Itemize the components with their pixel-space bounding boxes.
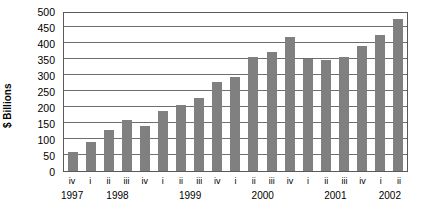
bar [158, 111, 168, 171]
bar [339, 57, 349, 171]
x-axis-quarter-label: iii [190, 175, 208, 188]
bar [248, 57, 258, 171]
bar [285, 37, 295, 171]
y-axis-tick-label: 400 [37, 39, 55, 50]
bar [104, 130, 114, 171]
bar [86, 142, 96, 171]
x-axis-quarter-label: i [154, 175, 172, 188]
bar [230, 77, 240, 171]
y-axis-tick-label: 50 [43, 151, 55, 162]
bar [267, 52, 277, 171]
y-axis-tick-label: 200 [37, 103, 55, 114]
bar [303, 59, 313, 171]
bars-container [64, 13, 407, 171]
bar-slot [263, 13, 281, 171]
x-axis-quarter-label: iii [263, 175, 281, 188]
x-axis-quarter-label: iv [354, 175, 372, 188]
bar-slot [154, 13, 172, 171]
bar-slot [226, 13, 244, 171]
y-axis-tick-label: 100 [37, 135, 55, 146]
plot-area [63, 12, 408, 172]
bar-slot [389, 13, 407, 171]
bar-chart: $ Billions 50045040035030025020015010050… [0, 0, 428, 210]
y-axis-tick-label: 300 [37, 71, 55, 82]
bar [140, 126, 150, 171]
bar [212, 82, 222, 171]
x-axis-year-labels: 199719981999200020012002 [63, 189, 408, 203]
y-axis-title: $ Billions [0, 56, 14, 156]
bar-slot [136, 13, 154, 171]
x-axis-quarter-label: i [299, 175, 317, 188]
y-axis-tick-labels: 500450400350300250200150100500 [14, 12, 59, 172]
x-axis-quarter-label: iii [335, 175, 353, 188]
x-axis-year-label: 1998 [106, 189, 128, 203]
x-axis-year-label: 2002 [379, 189, 401, 203]
bar-slot [64, 13, 82, 171]
x-axis-quarter-label: i [226, 175, 244, 188]
x-axis-year-label: 2000 [252, 189, 274, 203]
bar-slot [281, 13, 299, 171]
x-axis-year-label: 1997 [61, 189, 83, 203]
bar [122, 120, 132, 171]
x-axis-quarter-label: ii [245, 175, 263, 188]
bar-slot [353, 13, 371, 171]
bar [357, 46, 367, 171]
y-axis-tick-label: 250 [37, 87, 55, 98]
bar-slot [371, 13, 389, 171]
bar [375, 35, 385, 171]
y-axis-tick-label: 150 [37, 119, 55, 130]
bar-slot [317, 13, 335, 171]
bar-slot [82, 13, 100, 171]
x-axis-quarter-label: iv [208, 175, 226, 188]
y-axis-tick-label: 500 [37, 7, 55, 18]
x-axis-quarter-label: ii [390, 175, 408, 188]
bar [194, 98, 204, 171]
x-axis-quarter-label: iii [117, 175, 135, 188]
y-axis-tick-label: 450 [37, 23, 55, 34]
bar [393, 19, 403, 171]
bar-slot [190, 13, 208, 171]
x-axis-quarter-label: i [372, 175, 390, 188]
x-axis-year-label: 2001 [324, 189, 346, 203]
x-axis-quarter-label: ii [317, 175, 335, 188]
x-axis-quarter-label: ii [99, 175, 117, 188]
bar [176, 105, 186, 171]
x-axis-quarter-label: ii [172, 175, 190, 188]
x-axis-year-label: 1999 [179, 189, 201, 203]
bar-slot [335, 13, 353, 171]
bar [321, 60, 331, 171]
bar-slot [244, 13, 262, 171]
bar [68, 152, 78, 171]
y-axis-tick-label: 350 [37, 55, 55, 66]
y-axis-tick-label: 0 [49, 167, 55, 178]
x-axis-quarter-label: iv [136, 175, 154, 188]
bar-slot [100, 13, 118, 171]
bar-slot [118, 13, 136, 171]
x-axis-quarter-label: iv [281, 175, 299, 188]
bar-slot [172, 13, 190, 171]
x-axis-quarter-label: i [81, 175, 99, 188]
x-axis-quarter-label: iv [63, 175, 81, 188]
x-axis-quarter-labels: iviiiiiiiviiiiiiiviiiiiiiviiiiiiiviii [63, 175, 408, 188]
bar-slot [299, 13, 317, 171]
bar-slot [208, 13, 226, 171]
